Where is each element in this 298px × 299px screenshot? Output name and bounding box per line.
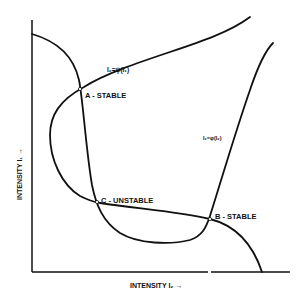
point-b-label: B - STABLE [215, 212, 257, 221]
curve-psi-label: I₂=ψ(I₁) [107, 66, 129, 74]
x-axis-label: INTENSITY I₂ → [130, 282, 182, 289]
point-a-label: A - STABLE [85, 91, 126, 100]
curve-psi [50, 17, 262, 272]
y-axis-label: INTENSITY I₁ → [16, 148, 23, 200]
curve-phi-label: I₁=φ(I₂) [203, 135, 222, 141]
point-b-marker [208, 217, 211, 220]
point-a-marker [78, 87, 81, 90]
point-c-label: C - UNSTABLE [101, 196, 153, 205]
axes [32, 20, 290, 272]
point-c-marker [95, 200, 98, 203]
bistability-diagram: A - STABLE C - UNSTABLE B - STABLE I₂=ψ(… [0, 0, 298, 299]
